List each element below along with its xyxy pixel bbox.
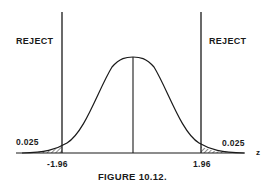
tail-area-left: 0.025 — [16, 138, 39, 147]
reject-label-left: REJECT — [16, 37, 53, 46]
tail-area-right: 0.025 — [222, 139, 245, 148]
reject-label-right: REJECT — [209, 37, 246, 46]
critical-value-left: -1.96 — [47, 160, 68, 169]
z-axis-label: z — [256, 149, 260, 157]
critical-value-right: 1.96 — [193, 160, 211, 169]
normal-curve-chart — [0, 0, 273, 190]
figure-caption: FIGURE 10.12. — [98, 172, 167, 182]
